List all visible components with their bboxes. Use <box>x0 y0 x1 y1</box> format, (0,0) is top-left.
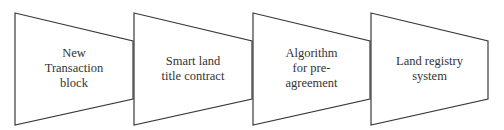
step-4-line-2: system <box>412 69 447 84</box>
step-2-label: Smart land title contract <box>139 52 247 86</box>
step-3-line-3: agreement <box>285 76 337 91</box>
step-1-line-2: Transaction <box>45 61 104 76</box>
step-3-line-1: Algorithm <box>285 46 337 61</box>
process-flow-diagram: New Transaction block Smart land title c… <box>0 0 504 130</box>
step-1-line-1: New <box>62 46 86 61</box>
step-1-line-3: block <box>60 76 88 91</box>
step-4-label: Land registry system <box>376 52 483 86</box>
step-4-line-1: Land registry <box>396 54 463 69</box>
step-3-label: Algorithm for pre- agreement <box>258 40 365 96</box>
step-2-line-2: title contract <box>162 69 225 84</box>
step-1-label: New Transaction block <box>20 40 128 96</box>
step-3-line-2: for pre- <box>293 61 331 76</box>
step-2-line-1: Smart land <box>166 54 221 69</box>
